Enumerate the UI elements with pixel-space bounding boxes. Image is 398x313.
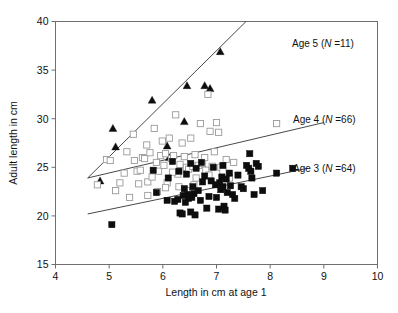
- marker-filled-square: [165, 175, 171, 181]
- marker-filled-triangle: [148, 96, 156, 103]
- marker-open-square: [117, 180, 123, 186]
- marker-filled-square: [227, 183, 233, 189]
- marker-open-square: [231, 159, 237, 165]
- marker-filled-square: [198, 159, 204, 165]
- marker-open-square: [169, 169, 175, 175]
- marker-filled-square: [260, 188, 266, 194]
- series-age-4: [94, 91, 279, 200]
- marker-open-square: [124, 149, 130, 155]
- marker-filled-square: [150, 167, 156, 173]
- annotation-age-4: Age 4 (N =66): [293, 114, 356, 125]
- marker-filled-square: [109, 222, 115, 228]
- marker-open-square: [197, 120, 203, 126]
- x-tick-label: 4: [53, 270, 59, 282]
- x-tick-label: 9: [321, 270, 327, 282]
- marker-open-square: [137, 167, 143, 173]
- annotation-age-5: Age 5 (N =11): [292, 38, 354, 49]
- x-tick-label: 8: [267, 270, 273, 282]
- chart-figure: 45678910 152025303540 Length in cm at ag…: [0, 0, 398, 313]
- marker-filled-triangle: [216, 48, 224, 55]
- marker-open-square: [173, 112, 179, 118]
- marker-filled-square: [248, 168, 254, 174]
- marker-open-square: [223, 156, 229, 162]
- marker-filled-square: [210, 164, 216, 170]
- marker-open-square: [188, 135, 194, 141]
- marker-open-square: [193, 175, 199, 181]
- x-tick-label: 5: [106, 270, 112, 282]
- marker-filled-square: [247, 151, 253, 157]
- marker-open-square: [177, 161, 183, 167]
- marker-filled-square: [220, 184, 226, 190]
- marker-filled-square: [204, 205, 210, 211]
- marker-open-square: [192, 152, 198, 158]
- x-axis-ticks: 45678910: [53, 265, 384, 282]
- marker-filled-square: [240, 186, 246, 192]
- marker-open-square: [147, 150, 153, 156]
- marker-filled-square: [164, 197, 170, 203]
- marker-filled-square: [199, 179, 205, 185]
- marker-filled-square: [169, 158, 175, 164]
- marker-open-square: [130, 131, 136, 137]
- marker-filled-square: [251, 191, 257, 197]
- marker-filled-square: [223, 176, 229, 182]
- marker-open-square: [145, 192, 151, 198]
- y-tick-label: 15: [37, 258, 49, 270]
- marker-filled-triangle: [180, 118, 188, 125]
- marker-open-square: [121, 170, 127, 176]
- marker-open-square: [181, 154, 187, 160]
- marker-filled-square: [197, 197, 203, 203]
- marker-open-square: [149, 174, 155, 180]
- series-annotations: Age 5 (N =11)Age 4 (N =66)Age 3 (N =64): [292, 38, 356, 174]
- marker-open-square: [211, 149, 217, 155]
- marker-filled-triangle: [112, 143, 120, 150]
- marker-open-square: [274, 120, 280, 126]
- marker-filled-square: [220, 162, 226, 168]
- marker-filled-square: [202, 173, 208, 179]
- marker-filled-square: [195, 188, 201, 194]
- marker-open-square: [94, 182, 100, 188]
- marker-open-square: [136, 181, 142, 187]
- marker-open-square: [220, 168, 226, 174]
- y-tick-label: 20: [37, 210, 49, 222]
- marker-open-square: [166, 135, 172, 141]
- y-axis-title: Adult length in cm: [7, 101, 19, 185]
- marker-filled-square: [153, 189, 159, 195]
- marker-filled-square: [255, 163, 261, 169]
- marker-filled-square: [179, 211, 185, 217]
- marker-open-square: [141, 155, 147, 161]
- marker-filled-triangle: [109, 124, 117, 131]
- x-tick-label: 6: [160, 270, 166, 282]
- marker-open-square: [161, 162, 167, 168]
- marker-filled-square: [226, 170, 232, 176]
- x-axis-title: Length in cm at age 1: [166, 286, 267, 298]
- marker-open-square: [170, 153, 176, 159]
- marker-open-square: [126, 194, 132, 200]
- marker-open-square: [107, 157, 113, 163]
- annotation-age-3: Age 3 (N =64): [293, 163, 356, 174]
- marker-open-square: [113, 188, 119, 194]
- marker-open-square: [162, 185, 168, 191]
- marker-filled-square: [176, 168, 182, 174]
- data-points: [94, 48, 296, 228]
- marker-open-square: [205, 91, 211, 97]
- marker-filled-square: [222, 207, 228, 213]
- marker-filled-square: [232, 195, 238, 201]
- marker-filled-square: [274, 170, 280, 176]
- marker-filled-triangle: [201, 82, 209, 89]
- y-axis-ticks: 152025303540: [37, 15, 56, 270]
- marker-open-square: [207, 128, 213, 134]
- scatter-plot-svg: 45678910 152025303540 Length in cm at ag…: [0, 0, 398, 313]
- marker-open-square: [151, 125, 157, 131]
- marker-filled-square: [183, 171, 189, 177]
- marker-filled-square: [206, 193, 212, 199]
- marker-open-square: [131, 157, 137, 163]
- marker-filled-square: [235, 172, 241, 178]
- marker-filled-square: [192, 212, 198, 218]
- marker-open-square: [162, 151, 168, 157]
- marker-open-square: [216, 129, 222, 135]
- marker-open-square: [213, 119, 219, 125]
- x-tick-label: 7: [214, 270, 220, 282]
- marker-open-square: [153, 159, 159, 165]
- plot-frame: [55, 21, 378, 265]
- marker-filled-square: [213, 194, 219, 200]
